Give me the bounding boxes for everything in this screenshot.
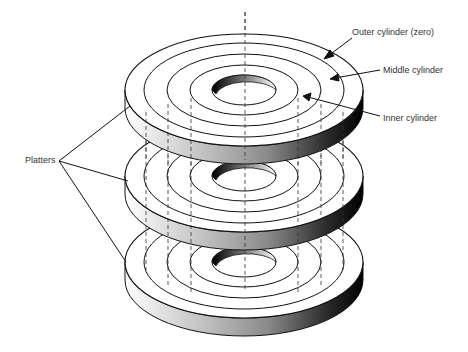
label-inner-cylinder: Inner cylinder [383,113,437,124]
platters-leader-lines [59,106,130,262]
label-middle-cylinder: Middle cylinder [383,65,443,76]
label-outer-cylinder: Outer cylinder (zero) [352,27,434,38]
disk-platters-diagram [0,0,468,352]
label-platters: Platters [25,155,56,166]
